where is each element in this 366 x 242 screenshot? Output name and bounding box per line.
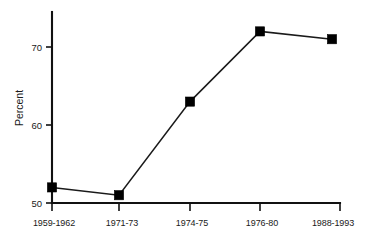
x-axis-tick-label-5: 1988-1993 — [312, 218, 354, 228]
y-axis-tick-label-70: 70 — [31, 42, 42, 53]
series-line-percent — [52, 31, 332, 195]
data-point-marker — [255, 27, 264, 36]
series-markers — [47, 27, 336, 200]
x-axis-tick-label-4: 1976-80 — [246, 218, 278, 228]
data-point-marker — [327, 35, 336, 44]
data-point-marker — [185, 97, 194, 106]
y-axis-tick-label-50: 50 — [31, 198, 42, 209]
line-chart-plot: 70 60 50 1959-1962 1971-73 1974-75 1976-… — [0, 0, 366, 242]
x-axis-tick-label-1: 1959-1962 — [33, 218, 75, 228]
chart-container: 70 60 50 1959-1962 1971-73 1974-75 1976-… — [0, 0, 366, 242]
data-point-marker — [114, 191, 123, 200]
data-point-marker — [47, 183, 56, 192]
y-axis-tick-label-60: 60 — [31, 120, 42, 131]
x-axis-tick-label-3: 1974-75 — [176, 218, 208, 228]
y-axis-title: Percent — [13, 90, 25, 126]
x-axis-tick-label-2: 1971-73 — [106, 218, 138, 228]
